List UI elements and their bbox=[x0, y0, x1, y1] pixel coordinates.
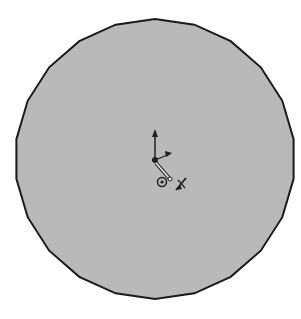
sketch-canvas[interactable] bbox=[0, 0, 301, 319]
